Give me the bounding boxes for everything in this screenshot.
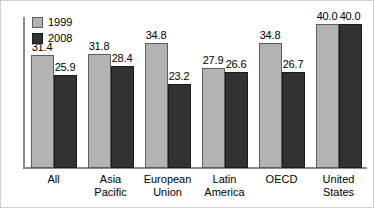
bar-value-label: 26.7: [275, 58, 312, 70]
bar-value-label: 31.8: [81, 40, 118, 52]
bar-2008-Latin-America: [225, 72, 248, 168]
legend-swatch-1999-icon: [32, 17, 43, 28]
bar-value-label: 28.4: [104, 52, 141, 64]
bar-1999-United-States: [316, 24, 339, 168]
legend-label-2008: 2008: [48, 32, 72, 44]
bar-value-label: 26.6: [218, 58, 255, 70]
legend-item-1999[interactable]: 1999: [32, 14, 72, 30]
bar-value-label: 34.8: [138, 29, 175, 41]
bar-2008-European-Union: [168, 84, 191, 168]
chart-legend: 1999 2008: [32, 14, 72, 46]
bar-2008-OECD: [282, 72, 305, 168]
legend-label-1999: 1999: [48, 16, 72, 28]
bar-1999-European-Union: [145, 43, 168, 168]
bar-value-label: 23.2: [161, 70, 198, 82]
bar-value-label: 25.9: [47, 61, 84, 73]
bar-2008-Asia-Pacific: [111, 66, 134, 168]
bar-1999-Latin-America: [202, 68, 225, 168]
bar-2008-All: [54, 75, 77, 168]
legend-swatch-2008-icon: [32, 33, 43, 44]
x-tick-label-United-States: United States: [306, 173, 372, 199]
bar-value-label: 34.8: [252, 29, 289, 41]
bar-value-label: 40.0: [332, 10, 369, 22]
bar-1999-Asia-Pacific: [88, 54, 111, 168]
bar-2008-United-States: [339, 24, 362, 168]
legend-item-2008[interactable]: 2008: [32, 30, 72, 46]
chart-figure: 31.425.9All31.828.4Asia Pacific34.823.2E…: [0, 0, 374, 208]
